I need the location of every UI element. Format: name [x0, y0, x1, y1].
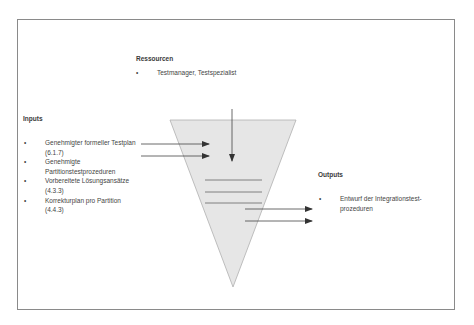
bullet-icon: •: [136, 68, 138, 78]
input-item: • Genehmigte Partitionstestprozeduren: [24, 157, 140, 176]
bullet-icon: •: [24, 157, 26, 167]
input-item: • Korrekturplan pro Partition (4.4.3): [24, 196, 140, 215]
outputs-heading: Outputs: [318, 171, 343, 178]
bullet-icon: •: [24, 196, 26, 206]
resource-item: • Testmanager, Testspezialist: [136, 68, 286, 78]
input-item-text: Korrekturplan pro Partition (4.4.3): [45, 197, 121, 214]
bullet-icon: •: [24, 138, 26, 148]
resources-heading: Ressourcen: [136, 55, 173, 62]
resources-list: • Testmanager, Testspezialist: [136, 68, 286, 78]
bullet-icon: •: [24, 176, 26, 186]
input-item: • Vorbereitete Lösungsansätze (4.3.3): [24, 176, 140, 195]
input-item: • Genehmigter formeller Testplan (6.1.7): [24, 138, 140, 157]
outputs-list: • Entwurf der Integrationstest-prozedure…: [319, 194, 444, 213]
inputs-list: • Genehmigter formeller Testplan (6.1.7)…: [24, 138, 140, 215]
input-item-text: Genehmigter formeller Testplan (6.1.7): [45, 139, 136, 156]
bullet-icon: •: [319, 194, 321, 204]
inputs-heading: Inputs: [23, 115, 43, 122]
resource-item-text: Testmanager, Testspezialist: [157, 69, 236, 76]
output-item: • Entwurf der Integrationstest-prozedure…: [319, 194, 444, 213]
input-item-text: Genehmigte Partitionstestprozeduren: [45, 158, 115, 175]
process-funnel: [170, 120, 296, 287]
output-item-text: Entwurf der Integrationstest-prozeduren: [340, 195, 422, 212]
input-item-text: Vorbereitete Lösungsansätze (4.3.3): [45, 177, 129, 194]
